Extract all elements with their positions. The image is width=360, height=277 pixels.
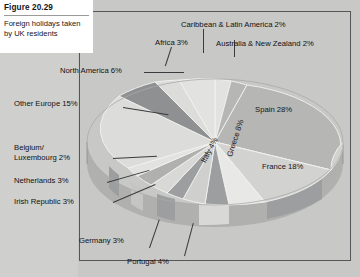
label-france: France 18%	[262, 162, 303, 171]
label-germany: Germany 3%	[79, 236, 124, 246]
figure-number: Figure 20.29	[4, 3, 89, 12]
label-belgium-line1: Belgium/	[14, 143, 44, 153]
label-other-europe: Other Europe 15%	[14, 99, 78, 109]
figure-caption: Foreign holidays taken by UK residents	[4, 19, 89, 38]
label-irish: Irish Republic 3%	[14, 197, 74, 207]
label-belgium-line2: Luxembourg 2%	[14, 153, 70, 163]
leader-caribbean	[203, 29, 204, 53]
figure-caption-box: Figure 20.29 Foreign holidays taken by U…	[0, 0, 93, 53]
figure-root: Africa 3% Caribbean & Latin America 2% A…	[0, 0, 360, 277]
leader-north-america	[144, 72, 184, 73]
label-portugal: Portugal 4%	[127, 257, 169, 267]
caption-divider	[4, 15, 89, 16]
label-australia: Australia & New Zealand 2%	[216, 39, 314, 49]
label-caribbean: Caribbean & Latin America 2%	[181, 20, 286, 30]
label-netherlands: Netherlands 3%	[14, 176, 69, 186]
label-north-america: North America 6%	[60, 66, 122, 76]
label-africa: Africa 3%	[155, 38, 188, 48]
label-spain: Spain 28%	[255, 105, 292, 114]
